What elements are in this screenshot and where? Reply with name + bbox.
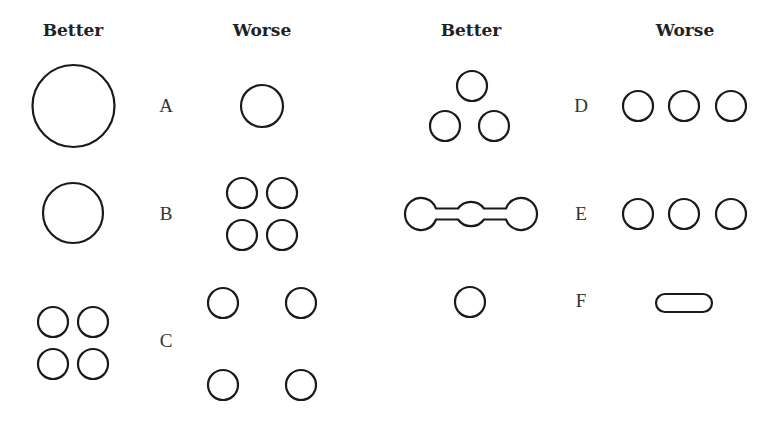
- row-b-better-medium-circle: [43, 183, 103, 243]
- row-d-better-triangle-circles: [430, 71, 509, 141]
- row-a-worse-small-circle: [241, 85, 283, 127]
- row-f-better-small-circle: [455, 287, 485, 317]
- row-e-better-connected-circles: [405, 198, 537, 230]
- row-a-better-large-circle: [33, 65, 115, 147]
- row-b-worse-four-circles: [227, 178, 297, 250]
- row-e-worse-separate-circles: [623, 199, 746, 229]
- row-c-worse-spread-circles: [208, 288, 316, 400]
- row-c-better-clustered-circles: [38, 307, 108, 379]
- row-d-worse-row-circles: [623, 91, 746, 121]
- row-f-worse-pill-shape: [656, 294, 712, 312]
